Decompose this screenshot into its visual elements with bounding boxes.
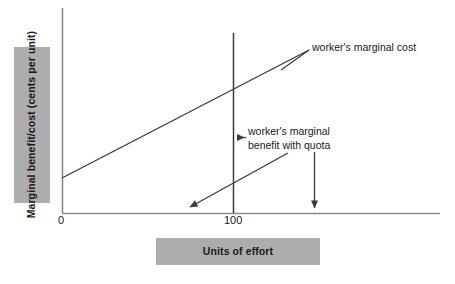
origin-tick-label: 0 — [58, 214, 64, 226]
marginal-cost-annotation: worker's marginal cost — [312, 40, 416, 54]
quota-pointer-arrow-diagonal — [190, 153, 288, 207]
y-axis-label-text: Marginal benefit/cost (cents per unit) — [25, 31, 38, 219]
marginal-cost-leader-line — [281, 50, 309, 70]
y-axis-label-box: Marginal benefit/cost (cents per unit) — [14, 47, 50, 203]
economics-figure: Marginal benefit/cost (cents per unit) U… — [0, 0, 455, 284]
marginal-benefit-annotation: worker's marginal benefit with quota — [248, 124, 330, 152]
x-axis-label-box: Units of effort — [156, 238, 320, 265]
marginal-cost-line — [62, 50, 309, 178]
xtick-label-100: 100 — [224, 214, 242, 226]
x-axis-label-text: Units of effort — [203, 245, 273, 258]
